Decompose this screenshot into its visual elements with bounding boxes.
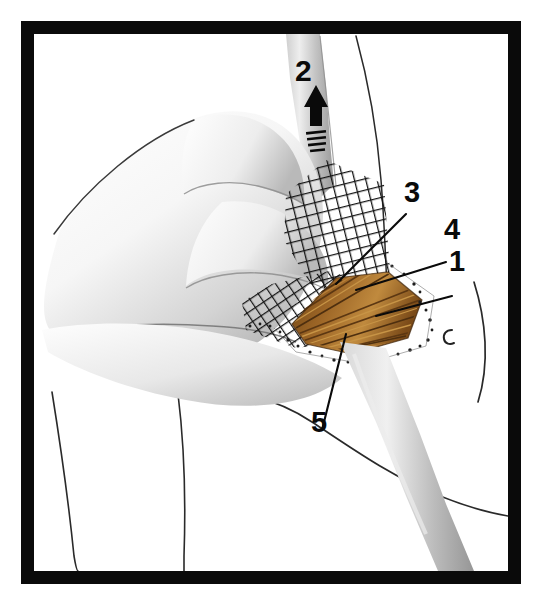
illustration-canvas	[34, 34, 508, 571]
callout-label-5: 5	[311, 408, 327, 437]
callout-label-3: 3	[404, 178, 420, 207]
illustration-artwork	[34, 34, 508, 571]
callout-label-4: 4	[444, 215, 460, 244]
callout-label-2: 2	[295, 56, 311, 86]
callout-label-1: 1	[449, 247, 465, 276]
figure-root: 1 2 3 4 5	[0, 0, 552, 606]
